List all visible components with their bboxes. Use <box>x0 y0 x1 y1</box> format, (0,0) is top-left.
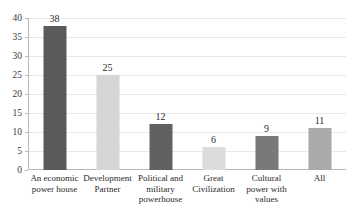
x-category-label: Development Partner <box>81 173 134 194</box>
x-category-label: Cultural power with values <box>240 173 293 205</box>
x-axis-category-labels: An economic power houseDevelopment Partn… <box>28 173 346 212</box>
bar-chart: 0510152025303540 3825126911 An economic … <box>0 0 353 212</box>
y-tick-label: 20 <box>13 89 23 99</box>
y-tick-label: 0 <box>17 165 22 175</box>
bar-group[interactable]: 25 <box>81 18 134 170</box>
bar[interactable] <box>308 128 331 170</box>
y-tick-mark <box>25 170 28 171</box>
bar[interactable] <box>43 26 66 170</box>
bar-value-label: 25 <box>103 62 113 73</box>
y-tick-label: 30 <box>13 51 23 61</box>
y-tick-label: 25 <box>13 70 23 80</box>
x-category-label: An economic power house <box>28 173 81 194</box>
bar-value-label: 6 <box>211 134 216 145</box>
y-tick-label: 15 <box>13 108 23 118</box>
bar-group[interactable]: 6 <box>187 18 240 170</box>
bar[interactable] <box>202 147 225 170</box>
bar-group[interactable]: 12 <box>134 18 187 170</box>
plot-area: 3825126911 <box>28 18 346 170</box>
bar-group[interactable]: 11 <box>293 18 346 170</box>
bar[interactable] <box>255 136 278 170</box>
bar-group[interactable]: 38 <box>28 18 81 170</box>
bar[interactable] <box>96 75 119 170</box>
bar[interactable] <box>149 124 172 170</box>
bars-layer: 3825126911 <box>28 18 346 170</box>
bar-value-label: 12 <box>156 111 166 122</box>
bar-value-label: 11 <box>315 115 325 126</box>
bar-group[interactable]: 9 <box>240 18 293 170</box>
y-axis-tick-labels: 0510152025303540 <box>0 0 26 212</box>
y-tick-label: 10 <box>13 127 23 137</box>
x-category-label: Great Civilization <box>187 173 240 194</box>
bar-value-label: 38 <box>50 13 60 24</box>
bar-value-label: 9 <box>264 123 269 134</box>
x-category-label: All <box>293 173 346 184</box>
y-tick-label: 35 <box>13 32 23 42</box>
y-tick-label: 5 <box>17 146 22 156</box>
x-category-label: Political and military powerhouse <box>134 173 187 205</box>
y-tick-label: 40 <box>13 13 23 23</box>
